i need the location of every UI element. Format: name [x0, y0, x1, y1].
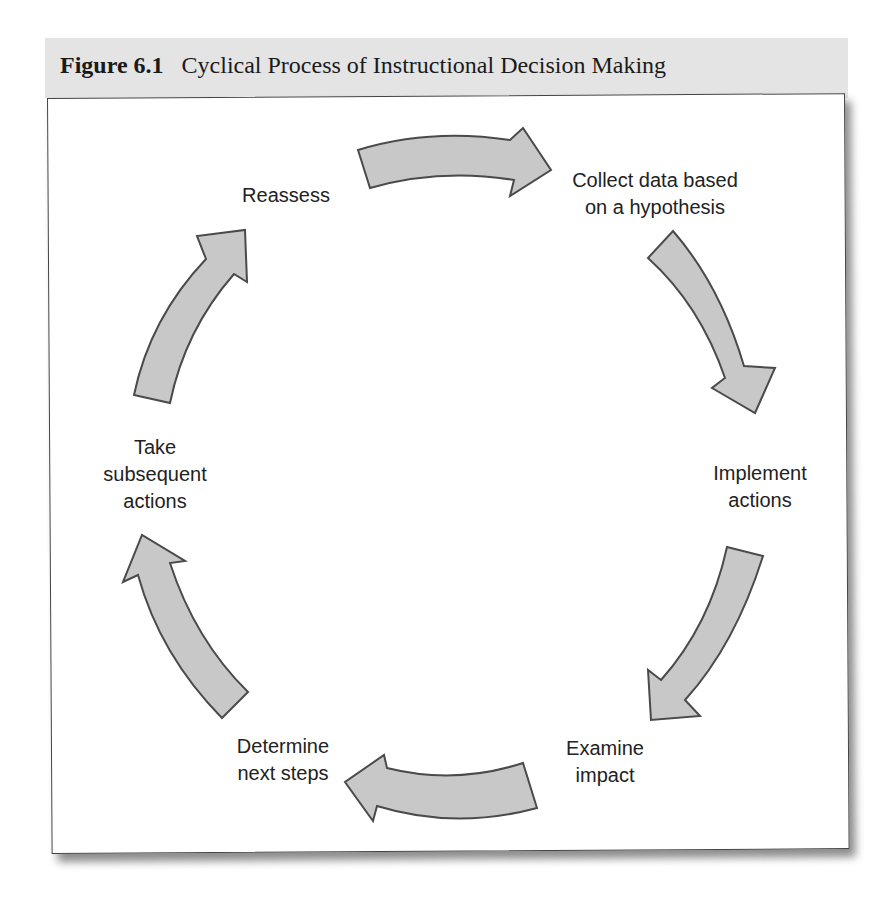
step-label-line: on a hypothesis [540, 194, 770, 221]
step-label-line: Collect data based [540, 167, 770, 194]
curved-arrow-down-icon [648, 231, 775, 413]
step-label-line: impact [545, 762, 665, 789]
curved-arrow-up-icon [123, 535, 248, 718]
step-collect-data: Collect data based on a hypothesis [540, 167, 770, 221]
step-label-line: subsequent [90, 461, 220, 488]
step-reassess: Reassess [226, 182, 346, 209]
step-implement-actions: Implement actions [690, 460, 830, 514]
curved-arrow-left-icon [345, 755, 537, 821]
step-label-line: Examine [545, 735, 665, 762]
step-label-line: next steps [218, 760, 348, 787]
curved-arrow-up-right-icon [134, 230, 247, 403]
step-label-line: Take [90, 434, 220, 461]
curved-arrow-down-left-icon [648, 547, 763, 720]
curved-arrow-right-icon [358, 128, 551, 196]
step-determine-next-steps: Determine next steps [218, 733, 348, 787]
step-examine-impact: Examine impact [545, 735, 665, 789]
step-label-line: actions [690, 487, 830, 514]
step-label-line: Implement [690, 460, 830, 487]
step-label-line: Determine [218, 733, 348, 760]
step-label-line: Reassess [226, 182, 346, 209]
step-label-line: actions [90, 488, 220, 515]
step-take-subsequent-actions: Take subsequent actions [90, 434, 220, 515]
